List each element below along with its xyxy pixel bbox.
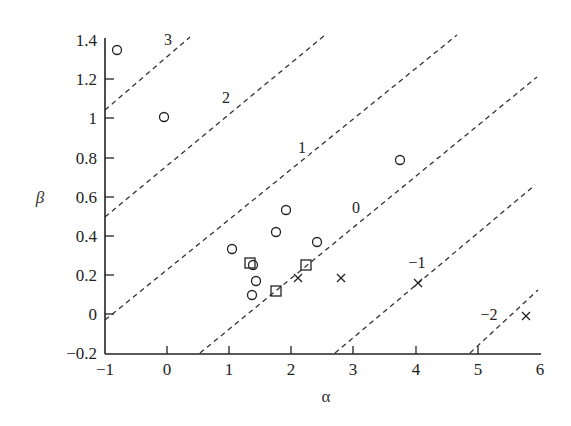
- cross-marker: [522, 312, 530, 320]
- x-tick-labels: −1 0 1 2 3 4 5 6: [96, 360, 544, 379]
- circle-marker: [313, 238, 322, 247]
- y-tick-label: 0.6: [76, 188, 97, 207]
- y-axis-title: β: [35, 188, 45, 207]
- axes: [105, 38, 541, 354]
- contour-label: 1: [298, 139, 306, 156]
- contour-lines: [105, 35, 538, 353]
- y-tick-label: 1.4: [76, 31, 98, 50]
- x-axis-title: α: [322, 387, 331, 406]
- cross-marker: [337, 274, 345, 282]
- contour-line-1: [105, 35, 457, 320]
- x-tick-label: 3: [349, 360, 358, 379]
- contour-label: 0: [352, 199, 360, 216]
- scatter-chart: −1 0 1 2 3 4 5 6 −0.2 0 0.2 0.4 0.6 0.8 …: [0, 0, 571, 426]
- circle-marker: [113, 46, 122, 55]
- x-ticks: [167, 346, 478, 354]
- contour-line-minus1: [335, 185, 535, 353]
- circle-marker: [272, 228, 281, 237]
- cross-marker: [414, 279, 422, 287]
- contour-label: 2: [222, 89, 230, 106]
- contour-line-3: [105, 37, 190, 110]
- circle-marker: [160, 113, 169, 122]
- x-tick-label: 1: [225, 360, 234, 379]
- y-tick-label: 1: [89, 109, 98, 128]
- square-marker: [245, 258, 255, 268]
- contour-line-2: [105, 35, 325, 217]
- x-tick-label: 4: [412, 360, 421, 379]
- x-tick-label: 2: [287, 360, 296, 379]
- contour-label: 3: [164, 31, 172, 48]
- cross-marker: [294, 274, 302, 282]
- y-tick-label: −0.2: [66, 344, 97, 363]
- x-tick-label: 5: [474, 360, 483, 379]
- contour-labels: 3 2 1 0 −1 −2: [161, 30, 500, 323]
- contour-label: −1: [408, 254, 425, 271]
- y-tick-labels: −0.2 0 0.2 0.4 0.6 0.8 1 1.2 1.4: [66, 31, 97, 363]
- x-tick-label: 6: [536, 360, 545, 379]
- y-tick-label: 0.8: [76, 149, 97, 168]
- circle-marker: [248, 291, 257, 300]
- square-marker: [301, 260, 311, 270]
- y-tick-label: 0.4: [76, 227, 98, 246]
- circle-marker: [252, 277, 261, 286]
- circle-marker: [396, 156, 405, 165]
- x-tick-label: −1: [96, 360, 114, 379]
- y-tick-label: 1.2: [76, 70, 97, 89]
- contour-label: −2: [480, 306, 497, 323]
- y-tick-label: 0: [89, 305, 98, 324]
- y-ticks: [105, 79, 114, 314]
- circle-marker: [228, 245, 237, 254]
- series-circles: [113, 46, 405, 300]
- y-tick-label: 0.2: [76, 266, 97, 285]
- x-tick-label: 0: [163, 360, 172, 379]
- circle-marker: [282, 206, 291, 215]
